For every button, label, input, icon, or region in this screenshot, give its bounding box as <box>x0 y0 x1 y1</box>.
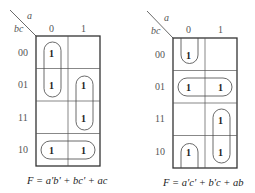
cell-01-0: 1 <box>49 80 54 91</box>
cell-01-1: 1 <box>81 80 86 91</box>
row-label-00: 00 <box>155 49 165 60</box>
cell-00-0: 1 <box>49 48 54 59</box>
kmap-right: a bc 0 1 00 01 11 10 1 1 1 1 1 1 F = a'c… <box>147 11 243 188</box>
cell-00-0: 1 <box>186 50 191 61</box>
cell-10-1: 1 <box>218 147 223 158</box>
col-label-0: 0 <box>186 24 191 35</box>
row-label-10: 10 <box>18 144 28 155</box>
col-variable-label: a <box>27 10 32 21</box>
row-variable-label: bc <box>151 25 161 36</box>
col-label-1: 1 <box>81 23 86 34</box>
cell-10-0: 1 <box>186 147 191 158</box>
cell-11-1: 1 <box>81 113 86 124</box>
cell-01-1: 1 <box>218 82 223 93</box>
row-label-11: 11 <box>155 113 165 124</box>
kmap-figure: a bc 0 1 00 01 11 10 1 1 1 1 1 1 F = a'b… <box>0 0 255 193</box>
col-variable-label: a <box>164 12 169 23</box>
kmap-left: a bc 0 1 00 01 11 10 1 1 1 1 1 1 F = a'b… <box>10 10 108 186</box>
equation-right: F = a'c' + b'c + ab <box>162 177 243 188</box>
col-label-0: 0 <box>49 23 54 34</box>
row-label-11: 11 <box>18 112 28 123</box>
col-label-1: 1 <box>218 24 223 35</box>
row-label-01: 01 <box>155 81 165 92</box>
cell-10-1: 1 <box>81 145 86 156</box>
row-label-10: 10 <box>155 146 165 157</box>
row-variable-label: bc <box>14 23 24 34</box>
equation-left: F = a'b' + bc' + ac <box>26 175 108 186</box>
cell-01-0: 1 <box>186 82 191 93</box>
row-label-01: 01 <box>18 79 28 90</box>
cell-11-1: 1 <box>218 115 223 126</box>
row-label-00: 00 <box>18 47 28 58</box>
cell-10-0: 1 <box>49 145 54 156</box>
